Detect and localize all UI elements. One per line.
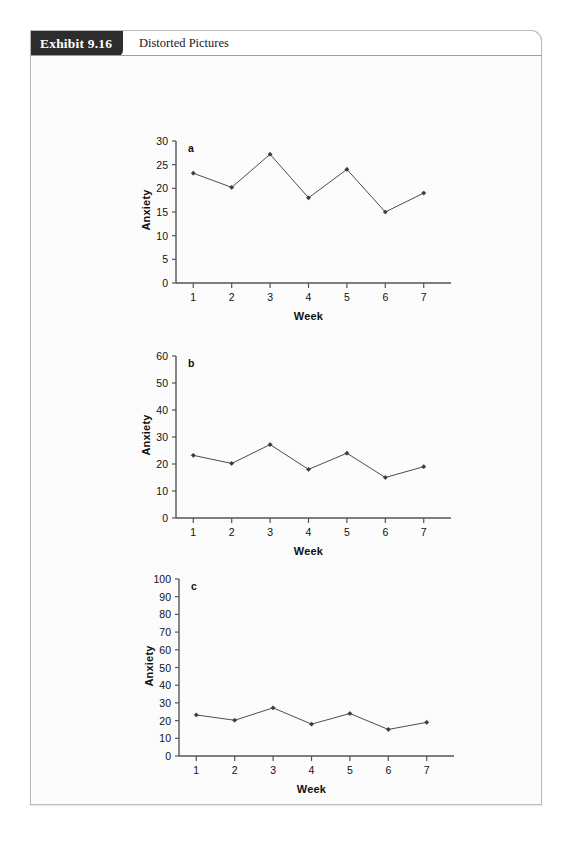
x-tick-label: 3 (255, 292, 285, 303)
x-tick-label: 5 (332, 292, 362, 303)
y-tick-label: 10 (137, 733, 171, 744)
data-point-marker (422, 191, 426, 195)
y-axis-title: Anxiety (140, 395, 152, 475)
y-axis-title: Anxiety (140, 170, 152, 250)
exhibit-panel: Exhibit 9.16 Distorted Pictures 05101520… (30, 31, 542, 805)
x-tick-label: 5 (332, 527, 362, 538)
x-tick-label: 3 (258, 765, 288, 776)
x-tick-label: 4 (297, 765, 327, 776)
y-tick-label: 80 (137, 609, 171, 620)
data-point-marker (191, 453, 195, 457)
x-tick-label: 2 (220, 765, 250, 776)
y-tick-label: 5 (134, 254, 168, 265)
line-chart-panel-b: 01020304050601234567bAnxietyWeek (31, 321, 541, 568)
data-series-line (193, 445, 423, 478)
y-tick-label: 20 (137, 716, 171, 727)
x-tick-label: 1 (181, 765, 211, 776)
plot-graphics (176, 141, 455, 297)
y-tick-label: 0 (137, 751, 171, 762)
data-point-marker (271, 706, 275, 710)
x-tick-label: 4 (294, 292, 324, 303)
data-series-line (193, 154, 423, 212)
data-point-marker (191, 171, 195, 175)
y-tick-label: 0 (134, 278, 168, 289)
x-tick-label: 6 (370, 527, 400, 538)
plot-area: 01020304050601234567bAnxietyWeek (176, 356, 441, 518)
plot-graphics (176, 356, 455, 532)
y-tick-label: 25 (134, 160, 168, 171)
plot-area: 0510152025301234567aAnxietyWeek (176, 141, 441, 283)
y-tick-label: 0 (134, 513, 168, 524)
exhibit-caption: Distorted Pictures (139, 36, 229, 51)
y-tick-label: 90 (137, 592, 171, 603)
y-axis-title: Anxiety (143, 626, 155, 706)
x-tick-label: 2 (217, 292, 247, 303)
exhibit-body: 0510152025301234567aAnxietyWeek010203040… (31, 56, 541, 804)
x-tick-label: 7 (409, 292, 439, 303)
plot-area: 01020304050607080901001234567cAnxietyWee… (179, 579, 444, 756)
x-tick-label: 3 (255, 527, 285, 538)
x-axis-title: Week (267, 783, 357, 795)
data-point-marker (422, 465, 426, 469)
x-tick-label: 4 (294, 527, 324, 538)
y-tick-label: 100 (137, 574, 171, 585)
x-tick-label: 1 (178, 292, 208, 303)
x-tick-label: 6 (373, 765, 403, 776)
x-tick-label: 5 (335, 765, 365, 776)
data-point-marker (425, 720, 429, 724)
y-tick-label: 10 (134, 486, 168, 497)
exhibit-header: Exhibit 9.16 Distorted Pictures (30, 30, 542, 56)
x-tick-label: 7 (412, 765, 442, 776)
x-tick-label: 7 (409, 527, 439, 538)
y-tick-label: 60 (134, 351, 168, 362)
panel-letter-b: b (188, 357, 194, 369)
data-point-marker (230, 461, 234, 465)
x-tick-label: 6 (370, 292, 400, 303)
x-tick-label: 1 (178, 527, 208, 538)
exhibit-number-label: Exhibit 9.16 (40, 36, 112, 52)
data-point-marker (194, 713, 198, 717)
data-point-marker (386, 727, 390, 731)
data-point-marker (348, 711, 352, 715)
panel-letter-a: a (188, 142, 194, 154)
data-point-marker (233, 718, 237, 722)
y-tick-label: 50 (134, 378, 168, 389)
exhibit-page: Exhibit 9.16 Distorted Pictures 05101520… (0, 0, 572, 849)
y-tick-label: 30 (134, 136, 168, 147)
line-chart-panel-c: 01020304050607080901001234567cAnxietyWee… (31, 546, 541, 806)
x-tick-label: 2 (217, 527, 247, 538)
exhibit-number-tab: Exhibit 9.16 (30, 30, 123, 56)
data-point-marker (309, 722, 313, 726)
panel-letter-c: c (191, 580, 197, 592)
line-chart-panel-a: 0510152025301234567aAnxietyWeek (31, 116, 541, 333)
plot-graphics (179, 579, 458, 770)
